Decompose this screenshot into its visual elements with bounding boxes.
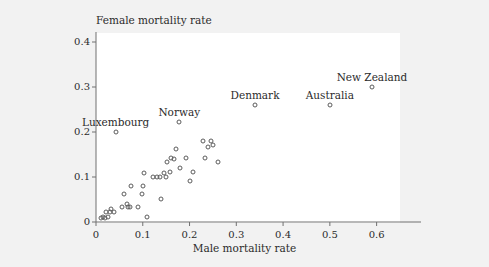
data-point bbox=[210, 142, 215, 147]
data-point bbox=[327, 103, 332, 108]
data-point bbox=[191, 170, 196, 175]
data-point bbox=[369, 84, 374, 89]
data-point bbox=[141, 170, 146, 175]
y-tick-label: 0.2 bbox=[46, 127, 90, 137]
x-tick-label: 0.5 bbox=[310, 230, 350, 240]
data-point bbox=[253, 103, 258, 108]
data-point bbox=[177, 120, 182, 125]
y-tick-label: 0 bbox=[46, 217, 90, 227]
x-axis-title: Male mortality rate bbox=[0, 243, 489, 254]
data-point bbox=[158, 196, 163, 201]
x-tick-label: 0 bbox=[76, 230, 116, 240]
data-point bbox=[164, 175, 169, 180]
x-tick-label: 0.2 bbox=[170, 230, 210, 240]
data-point bbox=[167, 169, 172, 174]
data-point bbox=[178, 165, 183, 170]
y-axis-title: Female mortality rate bbox=[96, 15, 212, 26]
data-point bbox=[165, 160, 170, 165]
x-tick-label: 0.3 bbox=[216, 230, 256, 240]
data-point bbox=[139, 192, 144, 197]
point-label-australia: Australia bbox=[306, 90, 354, 101]
point-label-norway: Norway bbox=[158, 107, 200, 118]
data-point bbox=[122, 192, 127, 197]
x-tick-label: 0.4 bbox=[263, 230, 303, 240]
data-point bbox=[187, 179, 192, 184]
data-point bbox=[140, 184, 145, 189]
data-point bbox=[127, 204, 132, 209]
point-label-new-zealand: New Zealand bbox=[337, 72, 408, 83]
data-point bbox=[129, 184, 134, 189]
point-label-denmark: Denmark bbox=[231, 90, 280, 101]
y-tick-label: 0.1 bbox=[46, 172, 90, 182]
data-point bbox=[106, 214, 111, 219]
data-point bbox=[200, 138, 205, 143]
data-point bbox=[171, 157, 176, 162]
data-point bbox=[113, 130, 118, 135]
data-point bbox=[157, 175, 162, 180]
point-label-luxembourg: Luxembourg bbox=[82, 117, 149, 128]
data-point bbox=[119, 204, 124, 209]
tick-mark-group bbox=[92, 42, 377, 226]
x-tick-label: 0.6 bbox=[357, 230, 397, 240]
scatter-plot-figure: 00.10.20.30.4 00.10.20.30.40.50.6 Luxemb… bbox=[0, 0, 489, 267]
x-tick-label: 0.1 bbox=[123, 230, 163, 240]
data-point bbox=[111, 210, 116, 215]
data-point bbox=[183, 156, 188, 161]
y-tick-label: 0.4 bbox=[46, 37, 90, 47]
plot-surface: 00.10.20.30.4 00.10.20.30.40.50.6 Luxemb… bbox=[0, 0, 489, 267]
data-point bbox=[174, 146, 179, 151]
data-point bbox=[145, 214, 150, 219]
data-point bbox=[202, 155, 207, 160]
data-point bbox=[215, 160, 220, 165]
data-point bbox=[136, 205, 141, 210]
y-tick-label: 0.3 bbox=[46, 82, 90, 92]
